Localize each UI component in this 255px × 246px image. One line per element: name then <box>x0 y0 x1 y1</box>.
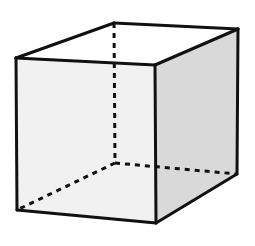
edge-front-left <box>16 58 17 210</box>
cube-diagram <box>0 0 255 246</box>
cube-front-face <box>16 58 156 223</box>
edge-front-right <box>155 65 156 223</box>
edge-back-right-vertical <box>237 29 238 174</box>
